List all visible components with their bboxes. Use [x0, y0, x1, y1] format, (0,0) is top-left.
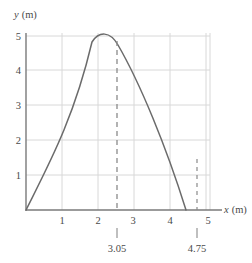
y-axis-title-var: y [13, 9, 19, 20]
x-tick-label-3: 3 [130, 215, 135, 226]
x-tick-label-4: 4 [167, 215, 173, 226]
annotation-label-4-75: 4.75 [188, 243, 206, 254]
y-tick-label-4: 4 [16, 65, 22, 76]
axes [26, 33, 222, 211]
grid [26, 33, 210, 210]
x-axis-ticks: 1 2 3 4 5 [59, 215, 210, 226]
y-tick-label-5: 5 [16, 31, 21, 42]
y-tick-label-1: 1 [16, 170, 21, 181]
marker-4-75: 4.75 [188, 159, 206, 254]
trajectory-chart: 5 4 3 2 1 1 2 3 4 5 3.05 4.75 y(m) x(m) [0, 0, 252, 263]
x-tick-label-5: 5 [205, 215, 210, 226]
x-axis-title-var: x [223, 204, 229, 215]
y-axis-ticks: 5 4 3 2 1 [16, 31, 22, 181]
marker-3-05: 3.05 [108, 41, 126, 254]
annotation-label-3-05: 3.05 [108, 243, 126, 254]
y-axis-title: y(m) [13, 9, 37, 21]
x-axis-title-unit: (m) [232, 204, 248, 216]
trajectory-curve [26, 34, 186, 210]
x-tick-label-2: 2 [95, 215, 100, 226]
x-tick-label-1: 1 [59, 215, 64, 226]
x-axis-title: x(m) [223, 204, 247, 216]
y-axis-title-unit: (m) [22, 9, 38, 21]
y-tick-label-3: 3 [16, 100, 21, 111]
y-tick-label-2: 2 [16, 135, 21, 146]
